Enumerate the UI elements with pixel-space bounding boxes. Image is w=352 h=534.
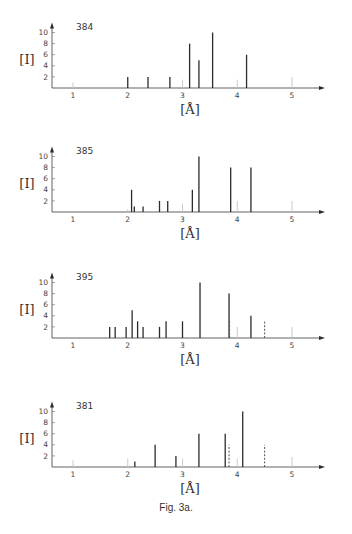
x-axis-label: [Å]: [180, 481, 200, 496]
y-tick-label: 4: [43, 311, 48, 320]
y-tick-label: 10: [38, 28, 48, 37]
figure-canvas: 38424681012345[I][Å]38524681012345[I][Å]…: [0, 0, 352, 534]
y-tick-label: 6: [43, 174, 48, 183]
x-axis-label: [Å]: [180, 352, 200, 367]
chart-panel-381: 38124681012345[I][Å]: [19, 401, 325, 497]
x-tick-label: 3: [180, 341, 185, 350]
x-axis-arrow-icon: [319, 210, 325, 214]
x-axis-arrow-icon: [319, 86, 325, 90]
y-tick-label: 8: [43, 418, 48, 427]
x-tick-label: 1: [71, 470, 76, 479]
y-axis-label: [I]: [19, 176, 34, 191]
x-tick-label: 2: [125, 470, 130, 479]
x-tick-label: 2: [125, 215, 130, 224]
x-tick-label: 3: [180, 91, 185, 100]
y-tick-label: 10: [38, 152, 48, 161]
x-tick-label: 5: [290, 341, 295, 350]
y-axis-label: [I]: [19, 302, 34, 317]
x-tick-label: 1: [71, 215, 76, 224]
y-tick-label: 8: [43, 289, 48, 298]
chart-panel-385: 38524681012345[I][Å]: [19, 146, 325, 242]
chart-panel-384: 38424681012345[I][Å]: [19, 22, 325, 118]
x-tick-label: 5: [290, 215, 295, 224]
x-tick-label: 4: [235, 470, 240, 479]
y-axis-arrow-icon: [50, 147, 54, 153]
y-axis-arrow-icon: [50, 273, 54, 279]
x-axis-arrow-icon: [319, 336, 325, 340]
x-tick-label: 4: [235, 341, 240, 350]
y-axis-arrow-icon: [50, 402, 54, 408]
y-axis-label: [I]: [19, 52, 34, 67]
panel-label: 381: [76, 401, 93, 411]
y-tick-label: 4: [43, 61, 48, 70]
y-axis-arrow-icon: [50, 23, 54, 29]
x-tick-label: 1: [71, 91, 76, 100]
panel-label: 385: [76, 146, 93, 156]
y-tick-label: 6: [43, 429, 48, 438]
panels: 38424681012345[I][Å]38524681012345[I][Å]…: [19, 22, 325, 497]
x-axis-label: [Å]: [180, 102, 200, 117]
x-tick-label: 2: [125, 341, 130, 350]
y-tick-label: 10: [38, 278, 48, 287]
y-tick-label: 8: [43, 39, 48, 48]
panel-label: 395: [76, 272, 93, 282]
y-tick-label: 2: [43, 73, 48, 82]
chart-panel-395: 39524681012345[I][Å]: [19, 272, 325, 368]
x-tick-label: 3: [180, 470, 185, 479]
y-tick-label: 10: [38, 407, 48, 416]
x-tick-label: 2: [125, 91, 130, 100]
y-tick-label: 8: [43, 163, 48, 172]
x-tick-label: 4: [235, 215, 240, 224]
y-tick-label: 2: [43, 452, 48, 461]
x-tick-label: 3: [180, 215, 185, 224]
figure-caption: Fig. 3a.: [159, 502, 192, 513]
x-axis-label: [Å]: [180, 226, 200, 241]
x-tick-label: 5: [290, 470, 295, 479]
panel-label: 384: [76, 22, 93, 32]
y-tick-label: 6: [43, 300, 48, 309]
y-tick-label: 4: [43, 440, 48, 449]
x-tick-label: 1: [71, 341, 76, 350]
x-tick-label: 5: [290, 91, 295, 100]
x-tick-label: 4: [235, 91, 240, 100]
y-tick-label: 4: [43, 185, 48, 194]
y-tick-label: 2: [43, 323, 48, 332]
x-axis-arrow-icon: [319, 465, 325, 469]
y-tick-label: 6: [43, 50, 48, 59]
y-tick-label: 2: [43, 197, 48, 206]
y-axis-label: [I]: [19, 431, 34, 446]
